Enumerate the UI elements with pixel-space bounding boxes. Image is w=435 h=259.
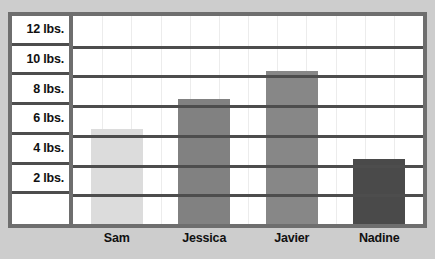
gridline-y-2 [73, 194, 423, 197]
y-tick-4: 4 lbs. [12, 135, 69, 165]
y-tick-label: 2 lbs. [33, 171, 64, 185]
y-tick-label: 6 lbs. [33, 111, 64, 125]
y-tick-label: 10 lbs. [26, 52, 64, 66]
y-tick-10: 10 lbs. [12, 46, 69, 76]
y-axis: 12 lbs. 10 lbs. 8 lbs. 6 lbs. 4 lbs. 2 l… [12, 16, 73, 224]
chart-title-cutoff [0, 0, 435, 9]
y-tick-2: 2 lbs. [12, 165, 69, 195]
bar-nadine [353, 159, 405, 224]
y-tick-12: 12 lbs. [12, 16, 69, 46]
gridline-y-10 [73, 75, 423, 78]
y-tick-label: 8 lbs. [33, 82, 64, 96]
y-tick-label: 4 lbs. [33, 141, 64, 155]
x-tick-label-nadine: Nadine [319, 231, 435, 245]
y-tick-8: 8 lbs. [12, 75, 69, 105]
bar-jessica [178, 99, 230, 224]
plot-area [73, 16, 423, 224]
bar-sam [91, 129, 143, 224]
bar-javier [266, 71, 318, 224]
gridline-y-6 [73, 135, 423, 138]
gridline-y-8 [73, 105, 423, 108]
bar-chart: 12 lbs. 10 lbs. 8 lbs. 6 lbs. 4 lbs. 2 l… [8, 12, 427, 228]
gridline-y-4 [73, 165, 423, 168]
chart-inner: 12 lbs. 10 lbs. 8 lbs. 6 lbs. 4 lbs. 2 l… [12, 16, 423, 224]
x-axis: Sam Jessica Javier Nadine [8, 231, 427, 255]
y-tick-label: 12 lbs. [26, 22, 64, 36]
gridline-y-12 [73, 46, 423, 49]
y-tick-6: 6 lbs. [12, 105, 69, 135]
